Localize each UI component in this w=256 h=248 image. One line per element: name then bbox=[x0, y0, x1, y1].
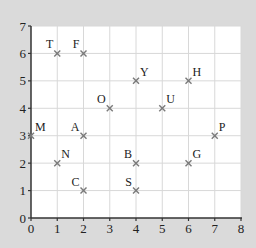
point-label: T bbox=[46, 37, 54, 51]
y-tick-label: 4 bbox=[20, 101, 27, 116]
point-label: M bbox=[35, 120, 46, 134]
point-label: U bbox=[166, 92, 175, 106]
point-label: S bbox=[125, 175, 132, 189]
point-label: F bbox=[73, 37, 80, 51]
scatter-chart: 012345678 01234567 TFYHOUMAPNBGCS bbox=[0, 0, 256, 248]
x-tick-label: 4 bbox=[133, 221, 140, 236]
point-label: C bbox=[71, 175, 79, 189]
x-tick-label: 2 bbox=[80, 221, 87, 236]
y-tick-label: 6 bbox=[20, 46, 27, 61]
y-tick-label: 3 bbox=[20, 128, 27, 143]
y-tick-label: 7 bbox=[20, 19, 27, 34]
point-label: O bbox=[97, 92, 106, 106]
x-tick-label: 5 bbox=[159, 221, 166, 236]
x-tick-label: 1 bbox=[54, 221, 61, 236]
x-tick-label: 0 bbox=[28, 221, 35, 236]
y-axis-ticks: 01234567 bbox=[20, 19, 32, 226]
point-label: N bbox=[61, 147, 70, 161]
y-tick-label: 2 bbox=[20, 156, 27, 171]
x-tick-label: 7 bbox=[212, 221, 219, 236]
point-label: G bbox=[193, 147, 202, 161]
x-tick-label: 8 bbox=[238, 221, 245, 236]
x-tick-label: 3 bbox=[107, 221, 114, 236]
point-label: Y bbox=[140, 65, 149, 79]
y-tick-label: 0 bbox=[20, 211, 27, 226]
point-label: P bbox=[219, 120, 226, 134]
point-label: H bbox=[193, 65, 202, 79]
x-tick-label: 6 bbox=[185, 221, 192, 236]
y-tick-label: 5 bbox=[20, 73, 27, 88]
y-tick-label: 1 bbox=[20, 183, 27, 198]
x-axis-ticks: 012345678 bbox=[28, 218, 245, 236]
point-label: B bbox=[124, 147, 132, 161]
point-label: A bbox=[71, 120, 80, 134]
